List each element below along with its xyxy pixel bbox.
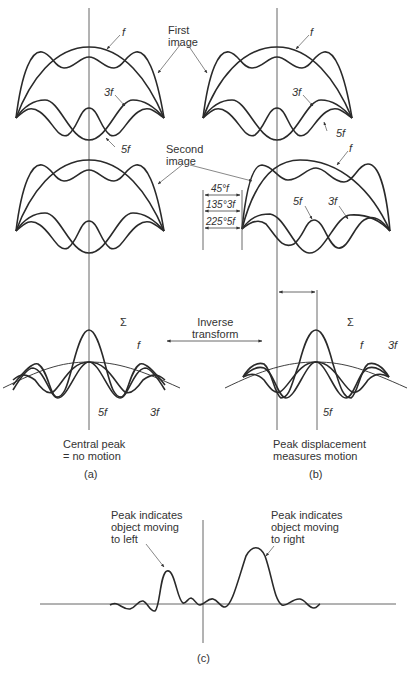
label-f-a1: f <box>122 26 125 38</box>
label-first-image: First image <box>168 24 198 48</box>
label-f-b1: f <box>310 26 313 38</box>
label-inverse-transform: Inverse transform <box>192 316 238 340</box>
label-f-b3: f <box>360 339 363 351</box>
second-image-b <box>242 160 390 253</box>
label-3f-a3: 3f <box>150 406 159 418</box>
sum-curves-a <box>3 330 180 398</box>
panel-label-c: (c) <box>197 652 210 664</box>
first-image-b <box>203 47 352 140</box>
label-f-a3: f <box>137 339 140 351</box>
label-3f-a1: 3f <box>104 86 113 98</box>
second-image-a <box>16 160 164 253</box>
label-3f-b3: 3f <box>388 339 397 351</box>
panel-c <box>40 520 396 643</box>
first-image-a <box>16 47 164 140</box>
label-phase-135: 135°3f <box>206 199 235 211</box>
caption-b: Peak displacement measures motion <box>273 438 366 462</box>
caption-a: Central peak = no motion <box>63 438 125 462</box>
label-peak-right: Peak indicates object moving to right <box>271 509 343 545</box>
label-3f-b2: 3f <box>328 195 337 207</box>
sum-curves-b <box>225 330 407 398</box>
label-phase-225: 225°5f <box>206 216 235 228</box>
label-5f-a1: 5f <box>121 143 130 155</box>
label-phase-45: 45°f <box>211 183 229 195</box>
label-f-b2: f <box>349 142 352 154</box>
peak-displacement-marker <box>279 290 317 430</box>
label-3f-b1: 3f <box>292 86 301 98</box>
label-5f-b1: 5f <box>336 127 345 139</box>
label-second-image: Second image <box>166 143 203 167</box>
panel-label-b: (b) <box>309 468 322 480</box>
label-5f-b2: 5f <box>293 195 302 207</box>
label-5f-a3: 5f <box>98 406 107 418</box>
label-sigma-a: Σ <box>120 316 127 328</box>
label-peak-left: Peak indicates object moving to left <box>111 509 183 545</box>
panel-label-a: (a) <box>84 468 97 480</box>
label-5f-b3: 5f <box>323 406 332 418</box>
label-sigma-b: Σ <box>347 316 354 328</box>
